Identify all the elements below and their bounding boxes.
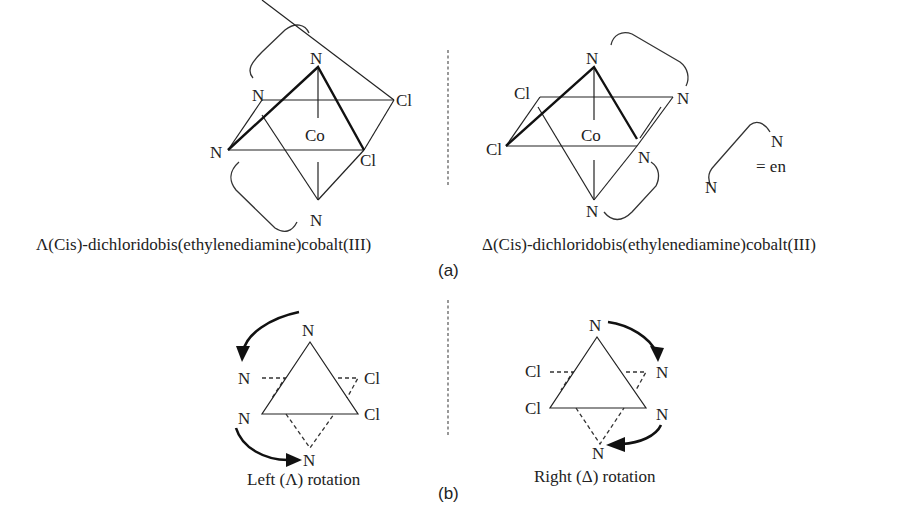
dashed-back-edge xyxy=(576,408,624,444)
atom-left: Cl xyxy=(486,140,502,159)
dashed-back-edge xyxy=(262,378,285,398)
atom-left: N xyxy=(210,143,222,162)
atom-bottom: N xyxy=(592,444,604,463)
delta-caption: Δ(Cis)-dichloridobis(ethylenediamine)cob… xyxy=(482,235,816,254)
atom-bottom: N xyxy=(310,211,322,230)
atom-lower-right: N xyxy=(638,148,650,167)
en-bracket-lower xyxy=(231,162,297,231)
atom-upper-left: Cl xyxy=(514,84,530,103)
atom-bottom: N xyxy=(586,202,598,221)
rotation-arrow xyxy=(622,425,661,444)
atom-top: N xyxy=(589,316,601,335)
rotation-arrow xyxy=(236,428,288,460)
en-bracket-lower xyxy=(604,162,659,220)
dashed-back-edge xyxy=(550,372,573,390)
delta-octahedron: N Cl Cl N N N Co xyxy=(486,33,689,221)
legend-atom-bottom: N xyxy=(705,178,717,197)
center-atom-co: Co xyxy=(581,126,601,145)
chirality-diagram: N N N N Cl Cl Co Λ(Cis)-dichloridobis(et… xyxy=(0,0,919,523)
left-rotation-diagram: N N N N Cl Cl xyxy=(236,312,380,470)
atom-upper-right: Cl xyxy=(364,369,380,388)
dashed-back-edge xyxy=(626,372,646,390)
arrowhead xyxy=(236,346,250,362)
center-atom-co: Co xyxy=(305,126,325,145)
dashed-back-edge xyxy=(286,414,334,448)
arrowhead xyxy=(606,437,625,452)
lambda-octahedron: N N N N Cl Cl Co xyxy=(210,0,412,231)
atom-upper-left: Cl xyxy=(525,362,541,381)
rotation-arrow xyxy=(243,312,299,352)
legend-atom-top: N xyxy=(771,132,783,151)
en-bracket-upper xyxy=(250,25,309,78)
en-ligand-bracket xyxy=(709,122,770,186)
atom-upper-right: N xyxy=(677,89,689,108)
atom-lower-right: Cl xyxy=(360,151,376,170)
legend-equals-en: = en xyxy=(756,157,786,176)
left-rotation-caption: Left (Λ) rotation xyxy=(247,470,361,489)
en-ligand-legend: N N = en xyxy=(705,122,786,197)
atom-lower-left: Cl xyxy=(525,399,541,418)
atom-upper-right: Cl xyxy=(396,91,412,110)
panel-label-b: (b) xyxy=(438,484,459,503)
panel-label-a: (a) xyxy=(438,261,459,280)
atom-top: N xyxy=(310,49,322,68)
atom-top: N xyxy=(302,321,314,340)
right-rotation-diagram: N Cl Cl N N N xyxy=(525,316,668,463)
atom-upper-left: N xyxy=(252,86,264,105)
atom-top: N xyxy=(586,49,598,68)
lambda-caption: Λ(Cis)-dichloridobis(ethylenediamine)cob… xyxy=(36,235,371,254)
arrowhead xyxy=(286,453,302,467)
right-rotation-caption: Right (Δ) rotation xyxy=(534,467,656,486)
atom-lower-left: N xyxy=(238,409,250,428)
atom-lower-right: Cl xyxy=(364,405,380,424)
atom-upper-left: N xyxy=(238,369,250,388)
atom-bottom: N xyxy=(303,451,315,470)
atom-lower-right: N xyxy=(656,405,668,424)
en-bracket-upper xyxy=(611,33,688,86)
atom-upper-right: N xyxy=(656,363,668,382)
rotation-arrow xyxy=(608,322,656,352)
arrowhead xyxy=(650,346,664,362)
